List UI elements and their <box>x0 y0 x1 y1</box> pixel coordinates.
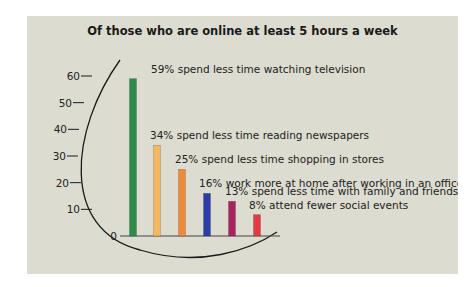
bar-label: 34% spend less time reading newspapers <box>150 129 369 141</box>
chart-panel: Of those who are online at least 5 hours… <box>27 16 458 274</box>
y-tick-label: 20 <box>56 177 69 189</box>
y-tick-label: 0 <box>110 230 117 242</box>
bar-label: 59% spend less time watching television <box>151 63 365 75</box>
bar <box>254 215 261 236</box>
y-tick-label: 40 <box>54 123 67 135</box>
bar-label: 8% attend fewer social events <box>249 199 408 211</box>
y-tick-label: 10 <box>67 203 80 215</box>
y-tick-label: 50 <box>59 97 72 109</box>
bar-label: 13% spend less time with family and frie… <box>225 185 458 197</box>
bar <box>204 193 211 236</box>
bar <box>229 201 236 236</box>
bar <box>179 169 186 236</box>
bar-label: 25% spend less time shopping in stores <box>175 153 384 165</box>
bar <box>154 145 161 236</box>
bar-chart: 010203040506059% spend less time watchin… <box>27 16 458 274</box>
y-tick-label: 60 <box>67 70 80 82</box>
y-tick-label: 30 <box>53 150 66 162</box>
bar <box>130 79 137 236</box>
